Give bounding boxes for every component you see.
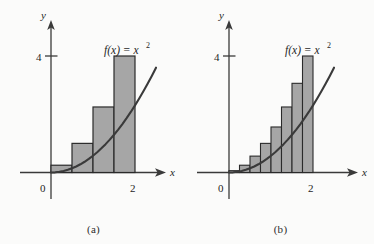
origin-label-b: 0 bbox=[218, 182, 224, 194]
panel-b-plot: y x 4 0 2 f(x) = x 2 bbox=[187, 0, 374, 244]
y-tick-label-b: 4 bbox=[214, 51, 220, 63]
bar-b-5 bbox=[271, 127, 282, 173]
figure-container: y x 4 0 2 f(x) = x 2 (a) bbox=[0, 0, 374, 244]
function-label-b: f(x) = x bbox=[285, 44, 320, 57]
y-axis-label-a: y bbox=[40, 9, 46, 21]
bar-a-4 bbox=[114, 56, 135, 173]
panel-b: y x 4 0 2 f(x) = x 2 (b) bbox=[187, 0, 374, 244]
x-tick-label-b: 2 bbox=[308, 182, 314, 194]
function-label-exponent-a: 2 bbox=[146, 41, 150, 50]
panel-a-plot: y x 4 0 2 f(x) = x 2 bbox=[0, 0, 187, 244]
panel-caption-a: (a) bbox=[0, 223, 187, 235]
y-axis-label-b: y bbox=[218, 9, 224, 21]
function-label-a: f(x) = x bbox=[104, 44, 139, 57]
x-axis-label-b: x bbox=[361, 166, 367, 178]
y-tick-label-a: 4 bbox=[36, 51, 42, 63]
origin-label-a: 0 bbox=[40, 182, 46, 194]
x-tick-label-a: 2 bbox=[130, 182, 136, 194]
function-label-exponent-b: 2 bbox=[327, 41, 331, 50]
panel-caption-b: (b) bbox=[187, 223, 374, 235]
x-axis-label-a: x bbox=[169, 166, 175, 178]
panel-a: y x 4 0 2 f(x) = x 2 (a) bbox=[0, 0, 187, 244]
